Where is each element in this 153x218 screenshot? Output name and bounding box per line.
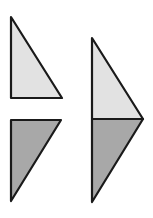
right-bottom-triangle <box>92 119 143 202</box>
left-top-triangle <box>11 17 62 98</box>
diagram-canvas <box>0 0 153 218</box>
separate-triangles-group <box>11 17 62 201</box>
right-top-triangle <box>92 38 143 119</box>
left-bottom-triangle <box>11 120 61 201</box>
combined-arrow-shape-group <box>92 38 143 202</box>
